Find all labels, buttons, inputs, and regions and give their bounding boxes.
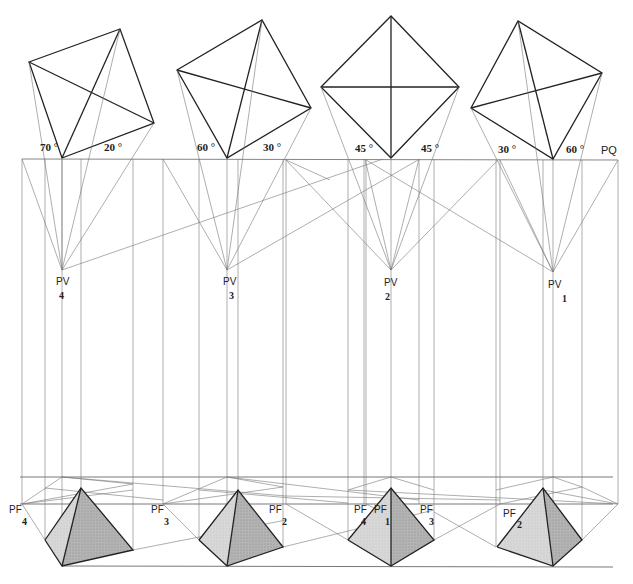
station-point-number-4: 4 bbox=[59, 291, 64, 301]
perspective-diagram bbox=[0, 0, 633, 584]
station-point-number-2: 2 bbox=[385, 292, 390, 302]
vanishing-number-pf3-view2: 3 bbox=[429, 517, 434, 527]
station-point-number-3: 3 bbox=[229, 291, 234, 301]
picture-plane-label: PQ bbox=[601, 145, 617, 156]
plan-view-3 bbox=[177, 20, 311, 158]
station-point-label-2: PV bbox=[384, 278, 397, 288]
station-point-label-4: PV bbox=[56, 277, 69, 287]
angle-label-view3-left: 60 ° bbox=[197, 142, 215, 153]
vanishing-number-pf4-view2: 4 bbox=[361, 517, 366, 527]
angle-label-view3-right: 30 ° bbox=[263, 142, 281, 153]
picture-plane-line bbox=[22, 159, 618, 160]
plan-view-2 bbox=[321, 16, 459, 158]
vanishing-label-pf1-view2: PF bbox=[374, 505, 387, 515]
vanishing-label-pf2-view3: PF bbox=[269, 505, 282, 515]
angle-label-view1-right: 60 ° bbox=[566, 144, 584, 155]
vanishing-number-pf3-view3: 3 bbox=[164, 517, 169, 527]
plan-view-1 bbox=[471, 21, 602, 159]
station-point-label-3: PV bbox=[223, 277, 236, 287]
vanishing-label-pf4-view4: PF bbox=[9, 505, 22, 515]
pyramid-3 bbox=[199, 490, 283, 566]
pyramid-1 bbox=[497, 488, 582, 566]
angle-label-view1-left: 30 ° bbox=[498, 144, 516, 155]
station-point-number-1: 1 bbox=[562, 294, 567, 304]
vanishing-label-pf2-view1: PF bbox=[503, 509, 516, 519]
vanishing-label-pf3-view2: PF bbox=[420, 505, 433, 515]
vanishing-number-pf2-view1: 2 bbox=[517, 520, 522, 530]
vanishing-number-pf4-view4: 4 bbox=[22, 517, 27, 527]
angle-label-view4-left: 70 ° bbox=[40, 142, 58, 153]
station-point-label-1: PV bbox=[548, 280, 561, 290]
angle-label-view4-right: 20 ° bbox=[104, 142, 122, 153]
vanishing-label-pf4-view2: PF bbox=[354, 505, 367, 515]
plan-view-4 bbox=[29, 29, 154, 158]
angle-label-view2-left: 45 ° bbox=[355, 143, 373, 154]
vanishing-number-pf2-view3: 2 bbox=[282, 517, 287, 527]
vanishing-number-pf1-view2: 1 bbox=[385, 517, 390, 527]
vanishing-label-pf3-view3: PF bbox=[151, 505, 164, 515]
pyramid-2 bbox=[348, 488, 434, 566]
angle-label-view2-right: 45 ° bbox=[421, 143, 439, 154]
